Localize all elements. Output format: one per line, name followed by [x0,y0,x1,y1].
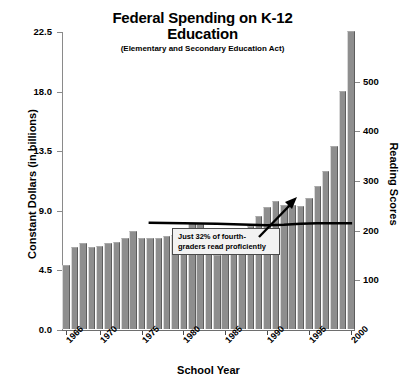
x-axis-title: School Year [62,364,355,376]
y-axis-left-tick-label: 22.5 [12,27,52,37]
y-axis-left-tick-label: 4.5 [12,265,52,275]
y-axis-left-tick [57,32,62,33]
y-axis-right-tick-label: 300 [363,176,403,186]
annotation-line-2: graders read proficiently [178,242,275,252]
y-axis-right-tick-label: 500 [363,77,403,87]
y-axis-left-tick [57,151,62,152]
reading-scores-line [62,32,355,331]
y-axis-left-tick [57,270,62,271]
plot-area: 0.04.59.013.518.022.51002003004005001966… [62,32,355,330]
y-axis-left-tick-label: 9.0 [12,206,52,216]
y-axis-right-tick [355,131,360,132]
y-axis-right-tick-label: 400 [363,126,403,136]
y-axis-left-tick [57,330,62,331]
y-axis-right-tick-label: 100 [363,275,403,285]
y-axis-right-tick [355,82,360,83]
y-axis-left-tick [57,211,62,212]
y-axis-right-tick-label: 200 [363,226,403,236]
chart-container: Federal Spending on K-12 Education (Elem… [0,0,410,387]
y-axis-left-tick [57,92,62,93]
annotation-arrow-icon [255,196,301,240]
y-axis-left-tick-label: 18.0 [12,87,52,97]
y-axis-right-tick [355,280,360,281]
y-axis-right-tick [355,231,360,232]
y-axis-right-tick [355,181,360,182]
y-axis-left-tick-label: 13.5 [12,146,52,156]
y-axis-left-tick-label: 0.0 [12,325,52,335]
y-axis-left-title: Constant Dollars (in billions) [26,84,38,284]
